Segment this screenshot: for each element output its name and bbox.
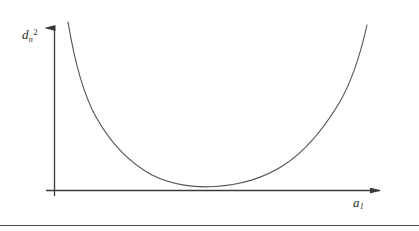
x-axis-label: a1 [353,196,364,211]
y-axis-label-superscript: 2 [33,27,37,37]
figure-container: dn2 a1 [0,0,419,231]
y-axis-label: dn2 [22,28,37,44]
page-separator-rule [0,225,419,226]
error-curve [68,22,367,187]
x-axis-label-subscript: 1 [360,202,364,211]
x-axis-label-base: a [353,195,360,210]
y-axis-label-base: d [22,27,29,42]
